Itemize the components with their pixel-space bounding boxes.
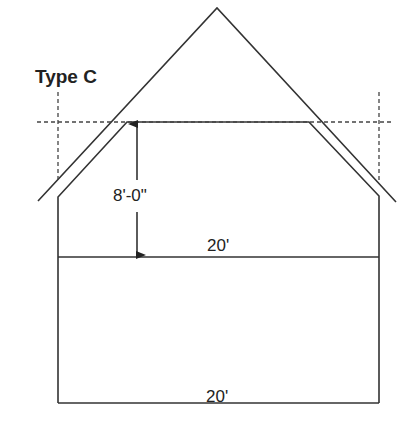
attic-section-diagram: Type C 8'-0" 20' 20'	[0, 0, 418, 424]
upper-width-label: 20'	[207, 236, 229, 255]
roof-outer-line	[38, 8, 396, 202]
diagram-title: Type C	[35, 66, 97, 87]
attic-inner-outline	[58, 122, 379, 403]
height-label: 8'-0"	[113, 186, 147, 205]
lower-width-label: 20'	[206, 387, 228, 406]
